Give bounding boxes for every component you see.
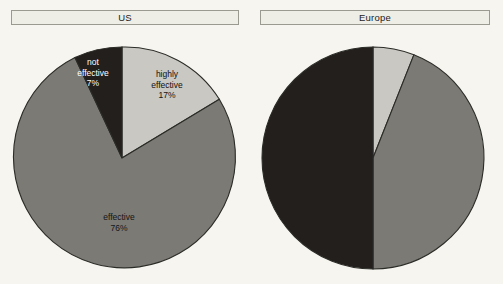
- chart-page: US not effective 7% highly effective 17%…: [0, 0, 503, 284]
- pie-svg-us: [0, 0, 251, 284]
- pie-chart-europe: [252, 0, 503, 284]
- panel-europe: Europe highly effective 6% not effective…: [252, 0, 503, 284]
- pie-slice-europe-not-effective: [262, 47, 373, 269]
- pie-svg-europe: [252, 0, 503, 284]
- panel-us: US not effective 7% highly effective 17%…: [0, 0, 251, 284]
- pie-chart-us: [0, 0, 251, 284]
